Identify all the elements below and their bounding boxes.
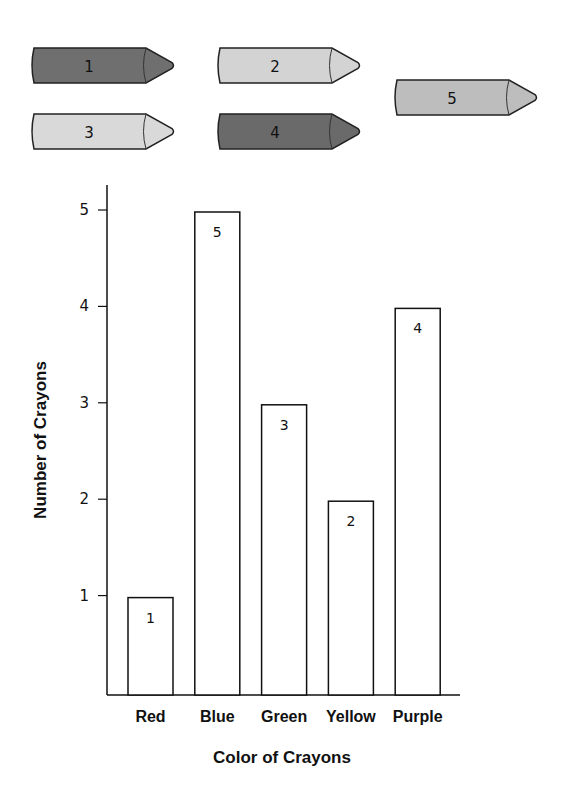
crayon-pictures: 12345 <box>32 48 537 149</box>
y-tick-label-3: 3 <box>79 394 89 412</box>
crayon-1: 1 <box>32 48 174 83</box>
y-tick-label-4: 4 <box>79 297 89 315</box>
crayon-5: 5 <box>395 80 537 115</box>
x-tick-label-yellow: Yellow <box>326 708 376 725</box>
bar-value-label-blue: 5 <box>213 224 222 240</box>
crayon-body <box>218 48 360 83</box>
y-tick-label-5: 5 <box>79 201 89 219</box>
bar-yellow <box>328 501 373 695</box>
x-tick-label-purple: Purple <box>393 708 443 725</box>
crayon-number: 4 <box>270 124 280 142</box>
bar-blue <box>195 212 240 695</box>
crayon-number: 5 <box>447 90 457 108</box>
y-tick-label-2: 2 <box>79 490 89 508</box>
crayon-number: 2 <box>270 58 280 76</box>
crayon-number: 3 <box>84 124 94 142</box>
crayon-number: 1 <box>84 58 94 76</box>
bar-green <box>262 405 307 695</box>
y-axis-title: Number of Crayons <box>31 361 50 519</box>
bar-value-label-purple: 4 <box>413 320 422 336</box>
bar-value-label-red: 1 <box>146 610 155 626</box>
crayon-body <box>395 80 537 115</box>
x-tick-label-blue: Blue <box>200 708 235 725</box>
crayon-3: 3 <box>32 114 174 149</box>
crayon-2: 2 <box>218 48 360 83</box>
crayon-body <box>32 114 174 149</box>
bar-purple <box>395 308 440 695</box>
crayon-body <box>218 114 360 149</box>
x-tick-label-green: Green <box>261 708 307 725</box>
y-tick-label-1: 1 <box>79 587 89 605</box>
crayon-4: 4 <box>218 114 360 149</box>
crayon-body <box>32 48 174 83</box>
x-tick-label-red: Red <box>135 708 165 725</box>
chart-area: 12345 15324 RedBlueGreenYellowPurple Col… <box>31 185 461 767</box>
bar-value-label-green: 3 <box>280 417 289 433</box>
crayon-bar-chart: 12345 12345 15324 RedBlueGreenYellowPurp… <box>0 0 565 798</box>
x-axis-title: Color of Crayons <box>213 748 351 767</box>
bar-value-label-yellow: 2 <box>346 513 355 529</box>
